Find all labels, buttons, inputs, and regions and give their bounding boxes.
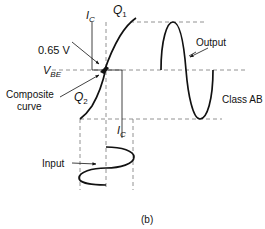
class-ab-label: Class AB [222, 94, 263, 105]
input-waveform [79, 147, 134, 185]
threshold-label: 0.65 V [38, 44, 70, 56]
q1-ic-axis [92, 22, 106, 70]
q1-transfer-curve [104, 18, 136, 72]
ic-top-label: IC [86, 9, 95, 24]
q2-label: Q2 [74, 90, 88, 106]
composite-label-line1: Composite [6, 89, 54, 100]
threshold-arrow [72, 42, 99, 64]
output-label: Output [196, 37, 226, 48]
vbe-label: VBE [43, 64, 62, 79]
q1-label: Q1 [113, 3, 127, 19]
input-label: Input [42, 158, 64, 169]
class-ab-transfer-diagram: IC Q1 0.65 V VBE Composite curve Q2 IC O… [0, 0, 265, 229]
output-arrow [190, 48, 208, 57]
ic-bottom-label: IC [117, 124, 126, 139]
q2-transfer-curve [80, 68, 106, 119]
figure-caption: (b) [141, 214, 153, 225]
composite-label-line2: curve [17, 101, 42, 112]
input-arrow [72, 163, 96, 164]
